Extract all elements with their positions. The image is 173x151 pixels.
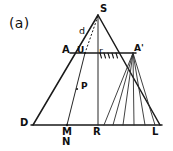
fan-ray [104,53,133,125]
label-point-P: P [81,82,88,91]
figure-panel-a: (a) S d A U r A' P D M N R L [0,0,173,151]
label-point-S: S [100,4,107,14]
label-segment-d: d [79,26,85,36]
fan-ray [133,53,155,125]
fan-ray [113,53,133,125]
label-point-L: L [152,127,158,137]
edge-S-D [33,15,98,125]
panel-tag-label: (a) [9,16,30,30]
label-point-U: U [77,46,84,55]
label-point-A: A [62,45,70,55]
fan-ray [133,53,145,125]
label-point-R: R [93,127,101,137]
fan-ray [133,53,134,125]
label-point-D: D [20,118,28,128]
point-P-dot [76,88,78,90]
label-segment-r: r [99,46,103,56]
label-point-A-prime: A' [134,44,144,53]
fan-rays-from-Aprime [104,53,155,125]
label-point-N: N [62,137,70,147]
fan-ray [123,53,133,125]
edge-S-L [98,15,160,125]
